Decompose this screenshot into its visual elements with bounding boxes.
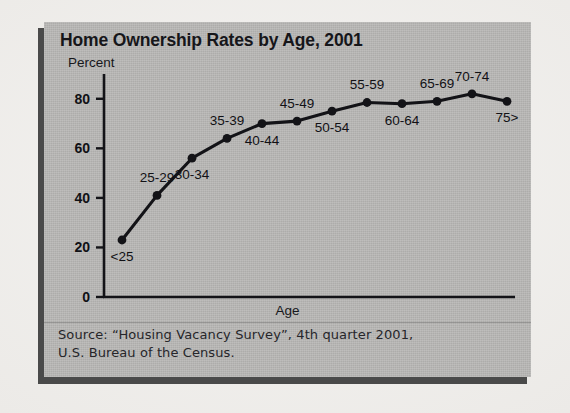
data-point-marker (433, 97, 442, 106)
data-point-label: 25-29 (140, 170, 175, 185)
data-point-marker (328, 107, 337, 116)
data-point-label: 35-39 (210, 113, 245, 128)
x-axis-title: Age (44, 303, 531, 318)
data-point-label: 30-34 (175, 167, 210, 182)
data-point-label: 60-64 (385, 113, 420, 128)
data-point-label: 50-54 (315, 120, 350, 135)
data-point-label: 75> (496, 110, 519, 125)
data-point-marker (258, 119, 267, 128)
data-point-marker (293, 117, 302, 126)
data-point-marker (468, 89, 477, 98)
data-point-marker (503, 97, 512, 106)
y-axis-tick-label: 20 (44, 239, 90, 255)
data-point-label: 65-69 (420, 76, 455, 91)
data-point-label: 40-44 (245, 133, 280, 148)
data-point-marker (223, 134, 232, 143)
data-point-label: 55-59 (350, 77, 385, 92)
data-point-marker (118, 236, 127, 245)
data-point-marker (363, 98, 372, 107)
source-line-1: Source: “Housing Vacancy Survey”, 4th qu… (58, 326, 413, 344)
data-point-marker (398, 99, 407, 108)
data-point-marker (153, 191, 162, 200)
source-line-2: U.S. Bureau of the Census. (58, 344, 413, 362)
y-axis-tick-label: 40 (44, 190, 90, 206)
y-axis-tick-label: 60 (44, 140, 90, 156)
data-point-marker (188, 154, 197, 163)
chart-figure-panel: Home Ownership Rates by Age, 2001 Percen… (44, 22, 531, 377)
caption-divider (44, 322, 531, 323)
data-point-label: <25 (111, 249, 134, 264)
y-axis-tick-label: 80 (44, 91, 90, 107)
data-point-label: 45-49 (280, 96, 315, 111)
line-chart-plot (44, 22, 531, 322)
source-caption: Source: “Housing Vacancy Survey”, 4th qu… (58, 326, 413, 361)
data-point-label: 70-74 (455, 69, 490, 84)
